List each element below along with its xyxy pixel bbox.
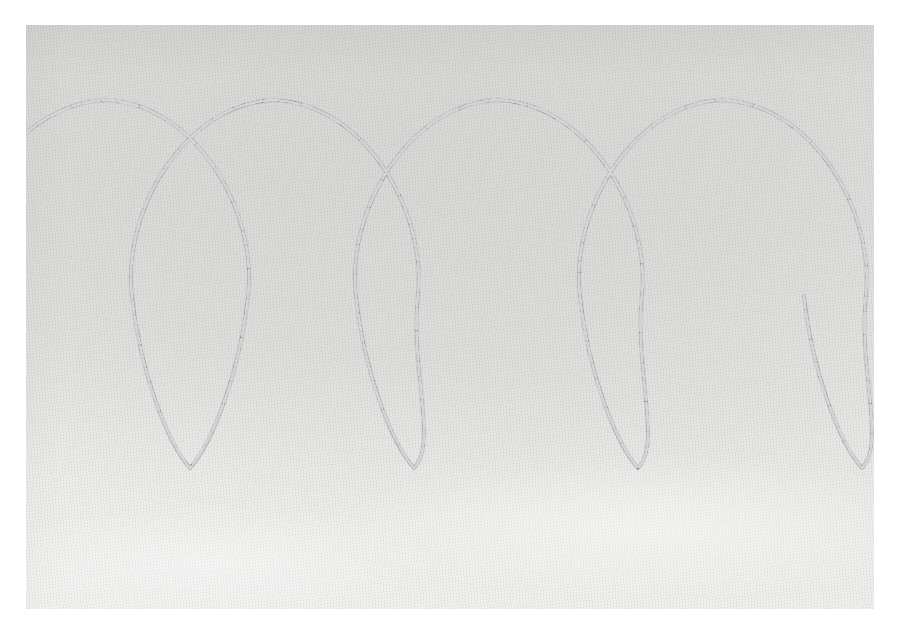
- photograph-frame: Stitched teardrop-lobe chain on light gr…: [0, 0, 900, 624]
- stitch-shadow-path: [26, 100, 872, 468]
- stitch-layer: [26, 25, 874, 609]
- running-stitch-path: [26, 100, 872, 468]
- caption-strip: [0, 610, 900, 624]
- running-stitch-gaps: [26, 100, 872, 468]
- fabric-swatch: [26, 25, 874, 609]
- image-title: Stitched teardrop-lobe chain on light gr…: [0, 0, 1, 1]
